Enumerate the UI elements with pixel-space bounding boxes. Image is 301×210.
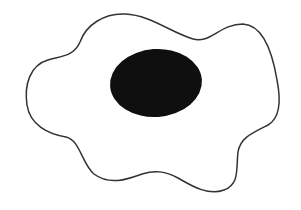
diagram-canvas [0, 0, 301, 210]
cell-diagram: Cell diagram: irregular wavy cell membra… [0, 0, 301, 210]
